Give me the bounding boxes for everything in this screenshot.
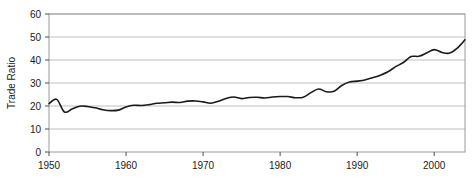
y-axis-tick-labels: 0102030405060: [30, 9, 42, 158]
y-tick-label-10: 10: [30, 124, 42, 135]
y-axis-title: Trade Ratio: [6, 57, 17, 109]
x-tick-label-1990: 1990: [346, 160, 369, 171]
trade-ratio-line-chart: 0102030405060 195019601970198019902000 T…: [0, 0, 475, 180]
y-axis-tick-marks: [45, 14, 49, 152]
y-tick-label-60: 60: [30, 9, 42, 20]
x-tick-label-1960: 1960: [115, 160, 138, 171]
y-tick-label-40: 40: [30, 55, 42, 66]
x-axis-tick-labels: 195019601970198019902000: [38, 160, 446, 171]
y-tick-label-30: 30: [30, 78, 42, 89]
y-tick-label-20: 20: [30, 101, 42, 112]
x-tick-label-1970: 1970: [192, 160, 215, 171]
x-tick-label-1950: 1950: [38, 160, 61, 171]
chart-canvas: 0102030405060 195019601970198019902000 T…: [0, 0, 475, 180]
y-tick-label-50: 50: [30, 32, 42, 43]
x-tick-label-1980: 1980: [269, 160, 292, 171]
x-axis-tick-marks: [49, 152, 434, 156]
y-axis-title-group: Trade Ratio: [6, 57, 17, 109]
y-tick-label-0: 0: [35, 147, 41, 158]
x-tick-label-2000: 2000: [423, 160, 446, 171]
